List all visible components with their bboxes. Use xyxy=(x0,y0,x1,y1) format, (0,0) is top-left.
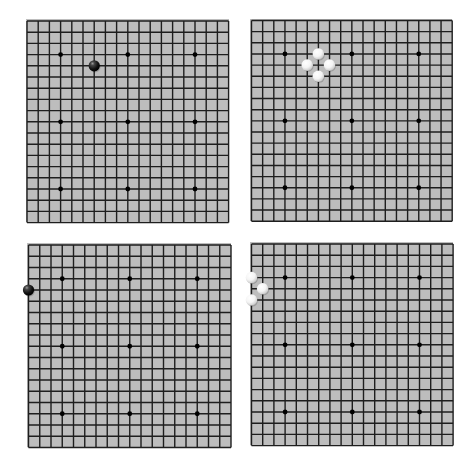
star-point xyxy=(193,119,198,124)
star-point xyxy=(283,410,288,415)
white-stone xyxy=(246,294,258,306)
star-point xyxy=(416,118,421,123)
star-point xyxy=(60,411,65,416)
star-point xyxy=(350,275,355,280)
star-point xyxy=(193,52,198,57)
star-point xyxy=(283,118,288,123)
star-point xyxy=(416,52,421,57)
star-point xyxy=(349,185,354,190)
star-point xyxy=(195,344,200,349)
star-point xyxy=(127,276,132,281)
star-point xyxy=(416,185,421,190)
board-grid xyxy=(250,19,452,221)
go-board-top-right xyxy=(250,19,452,221)
star-point xyxy=(125,52,130,57)
star-point xyxy=(58,187,63,192)
star-point xyxy=(195,276,200,281)
white-stone xyxy=(313,48,325,60)
star-point xyxy=(417,342,422,347)
go-board-bottom-left xyxy=(27,243,231,447)
star-point xyxy=(283,342,288,347)
star-point xyxy=(127,344,132,349)
star-point xyxy=(125,187,130,192)
star-point xyxy=(349,52,354,57)
star-point xyxy=(58,52,63,57)
star-point xyxy=(349,118,354,123)
white-stone xyxy=(301,59,313,71)
star-point xyxy=(350,410,355,415)
star-point xyxy=(283,275,288,280)
board-grid xyxy=(250,242,453,445)
white-stone xyxy=(313,70,325,82)
white-stone xyxy=(246,272,258,284)
star-point xyxy=(283,52,288,57)
star-point xyxy=(417,410,422,415)
star-point xyxy=(283,185,288,190)
star-point xyxy=(193,187,198,192)
board-grid xyxy=(26,19,229,222)
white-stone xyxy=(257,283,269,295)
black-stone xyxy=(23,284,34,295)
star-point xyxy=(60,344,65,349)
white-stone xyxy=(324,59,336,71)
black-stone xyxy=(89,60,100,71)
star-point xyxy=(127,411,132,416)
star-point xyxy=(417,275,422,280)
star-point xyxy=(60,276,65,281)
star-point xyxy=(58,119,63,124)
star-point xyxy=(125,119,130,124)
star-point xyxy=(195,411,200,416)
go-board-bottom-right xyxy=(250,242,453,445)
star-point xyxy=(350,342,355,347)
go-board-top-left xyxy=(26,19,229,222)
board-grid xyxy=(27,243,231,447)
